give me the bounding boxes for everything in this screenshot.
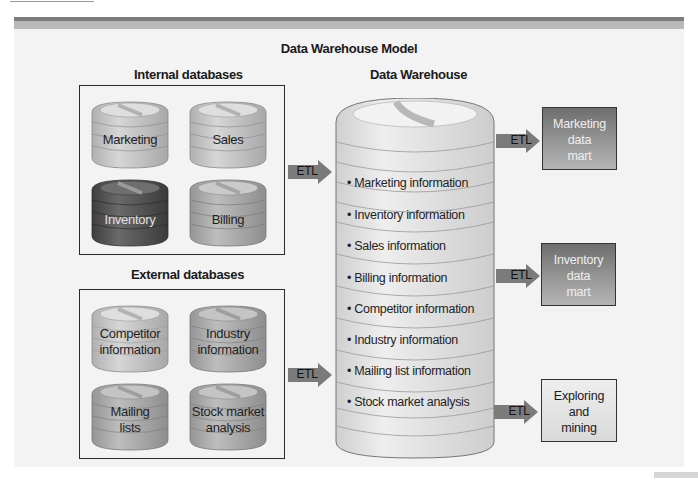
inventory-data-mart: Inventory data mart <box>541 243 616 306</box>
database-cylinder-mailing: Mailing lists <box>90 380 170 452</box>
box-line: mining <box>542 420 616 436</box>
database-label: Sales <box>188 132 268 148</box>
marketing-data-mart: Marketing data mart <box>542 107 617 170</box>
box-line: and <box>542 404 616 420</box>
data-warehouse-heading: Data Warehouse <box>370 67 467 82</box>
list-item: • Mailing list information <box>347 364 471 378</box>
label-line: Industry <box>188 326 268 342</box>
etl-label: ETL <box>292 164 322 178</box>
label-line: information <box>90 342 170 358</box>
database-cylinder-sales: Sales <box>188 98 268 170</box>
database-cylinder-inventory: Inventory <box>90 176 170 248</box>
box-line: Marketing <box>543 116 616 132</box>
list-item: • Billing information <box>347 271 447 285</box>
header-band-light <box>14 21 684 29</box>
list-item-text: Inventory information <box>354 208 464 222</box>
box-line: Exploring <box>542 388 616 404</box>
exploring-and-mining-box: Exploring and mining <box>541 379 617 442</box>
internal-databases-heading: Internal databases <box>134 67 243 82</box>
etl-label: ETL <box>506 268 536 282</box>
database-label: Billing <box>188 212 268 228</box>
etl-label: ETL <box>504 404 534 418</box>
list-item: • Industry information <box>347 333 458 347</box>
diagram-title: Data Warehouse Model <box>0 41 698 56</box>
etl-label: ETL <box>292 367 322 381</box>
label-line: Mailing <box>90 404 170 420</box>
etl-label: ETL <box>506 133 536 147</box>
box-line: mart <box>542 284 615 300</box>
database-cylinder-stock-market: Stock market analysis <box>188 380 268 452</box>
database-label: Inventory <box>90 212 170 228</box>
label-line: Stock market <box>188 404 268 420</box>
database-label: Industry information <box>188 326 268 358</box>
list-item: • Inventory information <box>347 208 465 222</box>
top-rule <box>10 1 94 2</box>
database-label: Marketing <box>90 132 170 148</box>
etl-arrow-inventory-mart: ETL <box>496 264 542 288</box>
label-line: information <box>188 342 268 358</box>
database-cylinder-marketing: Marketing <box>90 98 170 170</box>
box-line: mart <box>543 148 616 164</box>
box-line: data <box>543 132 616 148</box>
list-item: • Marketing information <box>347 176 468 190</box>
list-item-text: Sales information <box>354 239 445 253</box>
list-item-text: Billing information <box>354 271 447 285</box>
list-item-text: Stock market analysis <box>354 395 469 409</box>
etl-arrow-marketing-mart: ETL <box>496 129 542 153</box>
list-item-text: Industry information <box>354 333 458 347</box>
database-label: Competitor information <box>90 326 170 358</box>
label-line: Competitor <box>90 326 170 342</box>
database-label: Stock market analysis <box>188 404 268 436</box>
list-item-text: Mailing list information <box>354 364 470 378</box>
etl-arrow-exploring: ETL <box>494 400 540 424</box>
box-line: data <box>542 268 615 284</box>
list-item-text: Competitor information <box>354 302 474 316</box>
list-item: • Stock market analysis <box>347 395 470 409</box>
database-cylinder-competitor: Competitor information <box>90 302 170 374</box>
etl-arrow-external: ETL <box>288 363 334 387</box>
database-label: Mailing lists <box>90 404 170 436</box>
external-databases-heading: External databases <box>131 267 244 282</box>
label-line: lists <box>90 420 170 436</box>
list-item: • Sales information <box>347 239 446 253</box>
list-item-text: Marketing information <box>354 176 468 190</box>
box-line: Inventory <box>542 252 615 268</box>
list-item: • Competitor information <box>347 302 474 316</box>
corner-mark <box>654 472 698 478</box>
database-cylinder-industry: Industry information <box>188 302 268 374</box>
label-line: analysis <box>188 420 268 436</box>
etl-arrow-internal: ETL <box>288 160 334 184</box>
database-cylinder-billing: Billing <box>188 176 268 248</box>
